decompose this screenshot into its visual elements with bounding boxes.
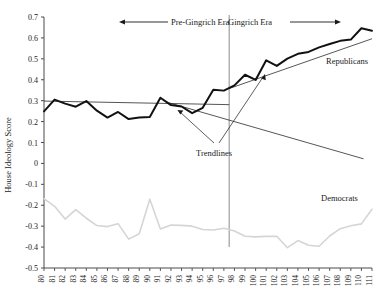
x-tick-label: 91 bbox=[153, 275, 162, 283]
x-tick-label: 81 bbox=[48, 275, 57, 283]
x-tick-label: 83 bbox=[69, 275, 78, 283]
x-tick-label: 94 bbox=[185, 275, 194, 283]
y-tick-label: -0.5 bbox=[25, 264, 38, 273]
x-tick-label: 96 bbox=[206, 275, 215, 283]
x-tick-label: 107 bbox=[323, 275, 332, 287]
x-tick-label: 89 bbox=[132, 275, 141, 283]
y-tick-label: 0.2 bbox=[28, 118, 38, 127]
x-tick-label: 98 bbox=[227, 275, 236, 283]
x-tick-label: 106 bbox=[312, 275, 321, 287]
y-tick-label: 0.4 bbox=[28, 76, 38, 85]
x-tick-label: 87 bbox=[111, 275, 120, 283]
y-tick-label: 0.1 bbox=[28, 139, 38, 148]
chart-container: House Ideology Score 0.70.60.50.40.30.20… bbox=[0, 0, 379, 301]
house-ideology-score-line-chart: House Ideology Score 0.70.60.50.40.30.20… bbox=[0, 0, 379, 301]
x-tick-label: 105 bbox=[302, 275, 311, 287]
y-tick-label: -0.3 bbox=[25, 222, 38, 231]
democrats-series-label: Democrats bbox=[321, 193, 358, 203]
x-tick-label: 97 bbox=[217, 275, 226, 283]
x-tick-label: 99 bbox=[238, 275, 247, 283]
x-tick-label: 86 bbox=[100, 275, 109, 283]
x-tick-label: 102 bbox=[270, 275, 279, 287]
x-tick-label: 92 bbox=[164, 275, 173, 283]
x-tick-label: 88 bbox=[122, 275, 131, 283]
x-tick-label: 100 bbox=[249, 275, 258, 287]
x-tick-label: 101 bbox=[259, 275, 268, 287]
y-tick-label: 0.5 bbox=[28, 55, 38, 64]
y-tick-label: 0.6 bbox=[28, 34, 38, 43]
republicans-series-label: Republicans bbox=[326, 56, 368, 66]
chart-background bbox=[0, 0, 379, 301]
x-tick-label: 104 bbox=[291, 275, 300, 287]
y-tick-label: -0.4 bbox=[25, 243, 38, 252]
x-tick-label: 110 bbox=[354, 275, 363, 286]
x-tick-label: 93 bbox=[175, 275, 184, 283]
trendlines-label: Trendlines bbox=[196, 148, 232, 158]
x-tick-label: 108 bbox=[333, 275, 342, 287]
x-tick-label: 90 bbox=[143, 275, 152, 283]
y-tick-label: 0 bbox=[34, 159, 38, 168]
x-tick-label: 82 bbox=[58, 275, 67, 283]
y-axis-title: House Ideology Score bbox=[3, 117, 13, 193]
y-tick-label: -0.2 bbox=[25, 201, 38, 210]
x-tick-label: 111 bbox=[365, 275, 374, 286]
pre-gingrich-era-label: Pre-Gingrich Era bbox=[171, 17, 230, 27]
x-tick-label: 85 bbox=[90, 275, 99, 283]
x-tick-label: 103 bbox=[280, 275, 289, 287]
y-tick-label: 0.7 bbox=[28, 13, 38, 22]
x-tick-label: 84 bbox=[79, 275, 88, 283]
y-tick-label: 0.3 bbox=[28, 97, 38, 106]
x-tick-label: 109 bbox=[344, 275, 353, 287]
y-tick-label: -0.1 bbox=[25, 180, 38, 189]
x-tick-label: 95 bbox=[196, 275, 205, 283]
gingrich-era-label: Gingrich Era bbox=[228, 17, 272, 27]
x-tick-label: 80 bbox=[37, 275, 46, 283]
